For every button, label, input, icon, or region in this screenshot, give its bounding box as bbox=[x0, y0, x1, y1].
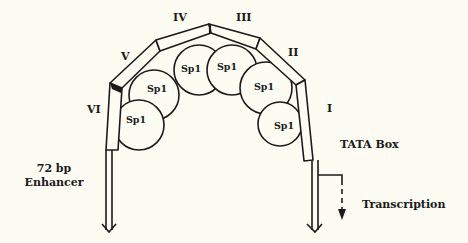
sp1-label-3: Sp1 bbox=[217, 62, 237, 72]
sp1-label-2: Sp1 bbox=[254, 82, 274, 92]
segment-label-iii: III bbox=[236, 12, 251, 23]
sp1-label-4: Sp1 bbox=[181, 64, 201, 74]
left-dna-strand bbox=[102, 150, 116, 232]
right-dna-strand bbox=[307, 160, 322, 232]
segment-label-iv: IV bbox=[173, 12, 187, 23]
sp1-dna-looping-diagram: IV III II I V VI Sp1 Sp1 Sp1 Sp1 Sp1 Sp1… bbox=[0, 0, 468, 243]
segment-label-ii: II bbox=[288, 47, 298, 58]
enhancer-label-line2: Enhancer bbox=[22, 177, 86, 188]
enhancer-label: 72 bp Enhancer bbox=[22, 163, 86, 188]
segment-label-vi: VI bbox=[87, 104, 101, 115]
tata-box-label: TATA Box bbox=[340, 139, 399, 150]
sp1-label-1: Sp1 bbox=[274, 121, 294, 131]
enhancer-label-line1: 72 bp bbox=[22, 163, 86, 174]
sp1-label-5: Sp1 bbox=[147, 84, 167, 94]
transcription-arrow bbox=[318, 175, 346, 220]
segment-label-v: V bbox=[121, 51, 130, 62]
segment-label-i: I bbox=[327, 103, 332, 114]
sp1-label-6: Sp1 bbox=[126, 115, 146, 125]
transcription-label: Transcription bbox=[362, 199, 445, 210]
